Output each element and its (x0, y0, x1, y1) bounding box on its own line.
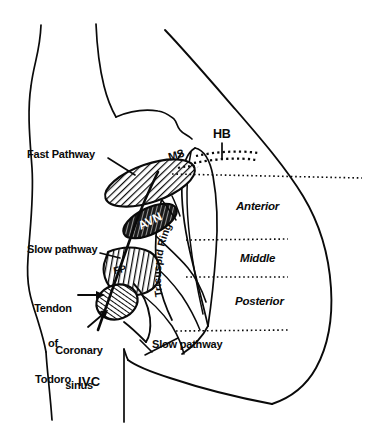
figure-root: AVN FP Tricuspid Ring Fast Pathway Slow … (0, 0, 377, 430)
label-region-anterior: Anterior (236, 200, 279, 212)
posterior-lower-divider (176, 330, 288, 331)
right-outer-contour-lower (128, 360, 272, 404)
septal-lobe-contour-right (195, 148, 217, 326)
label-fast-pathway: Fast Pathway (27, 149, 95, 161)
atrial-roof-contour (116, 110, 192, 139)
his-band-divider (172, 174, 362, 178)
label-ivc: IVC (78, 375, 100, 389)
svc-contour (96, 24, 116, 117)
leader-line-fast-pathway (108, 158, 135, 175)
label-slow-pathway-left: Slow pathway (27, 244, 97, 256)
label-his-bundle: HB (213, 128, 231, 142)
label-tendon-line-1: Tendon (25, 303, 81, 315)
label-region-posterior: Posterior (235, 295, 284, 307)
label-slow-pathway-bottom: Slow pathway (152, 339, 222, 351)
label-coronary-sinus: Coronary sinus (46, 321, 112, 416)
label-region-middle: Middle (240, 252, 275, 264)
label-coronary-line-1: Coronary (46, 345, 112, 357)
isthmus-band-2 (124, 322, 146, 342)
anterior-middle-divider (186, 239, 288, 240)
